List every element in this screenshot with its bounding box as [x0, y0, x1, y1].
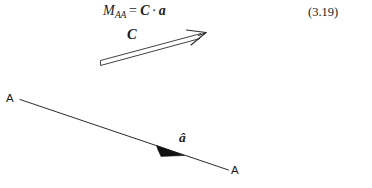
- equation-expression: MAA=C·a: [103, 2, 166, 24]
- equation-row: MAA=C·a (3.19): [0, 2, 372, 22]
- equation-number: (3.19): [308, 3, 338, 21]
- c-vector-double-arrow: [101, 34, 202, 66]
- equation-symbol-m: M: [103, 3, 115, 18]
- label-axis-left: A: [6, 92, 14, 105]
- c-arrow-head-lower-barb: [191, 33, 206, 46]
- c-arrow-head: [187, 30, 207, 45]
- c-arrow-lower-stroke: [101, 39, 201, 66]
- equation-vector-a: a: [159, 3, 166, 18]
- axis-line-a-a: [20, 100, 229, 171]
- c-arrow-upper-stroke: [101, 34, 202, 61]
- c-arrow-head-upper-barb: [187, 30, 207, 33]
- label-axis-right: A: [231, 164, 239, 177]
- diagram-vector-graphics: [0, 0, 372, 188]
- c-arrow-head-tip-joint: [199, 33, 207, 36]
- equation-dot-operator: ·: [150, 3, 159, 18]
- a-hat-solid-arrow: [157, 146, 185, 157]
- equation-matrix-c: C: [140, 3, 150, 18]
- label-c-vector: C: [127, 26, 137, 42]
- label-a-hat-vector: â: [179, 130, 186, 145]
- figure-canvas: MAA=C·a (3.19) C â A A: [0, 0, 372, 188]
- equation-equals-sign: =: [126, 3, 140, 18]
- equation-subscript-aa: AA: [115, 10, 126, 20]
